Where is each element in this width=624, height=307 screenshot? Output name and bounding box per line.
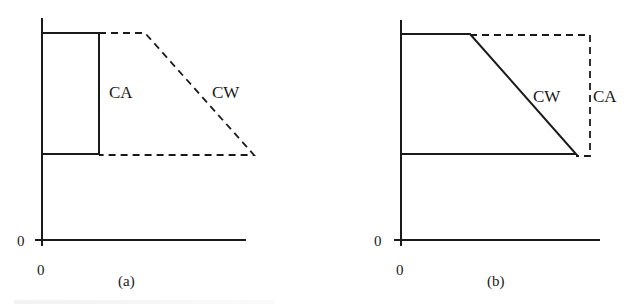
panel-a-ca-curve [42, 33, 99, 154]
panel-a-cw-label: CW [212, 83, 240, 102]
cropped-caption [14, 300, 274, 304]
panel-b-x-origin-label: 0 [396, 262, 404, 278]
panel-b-sublabel: (b) [487, 273, 505, 290]
panel-b-ca-label: CA [593, 87, 617, 106]
panel-a [35, 18, 254, 246]
panel-b-y-origin-label: 0 [374, 233, 382, 249]
figure-canvas: CA CW 0 0 (a) CW CA 0 0 (b) [0, 0, 624, 307]
panel-a-y-origin-label: 0 [17, 233, 25, 249]
panel-b-cw-label: CW [533, 87, 561, 106]
panel-b [394, 20, 600, 246]
panel-a-sublabel: (a) [118, 273, 135, 290]
panel-a-ca-label: CA [109, 83, 133, 102]
panel-a-x-origin-label: 0 [37, 262, 45, 278]
